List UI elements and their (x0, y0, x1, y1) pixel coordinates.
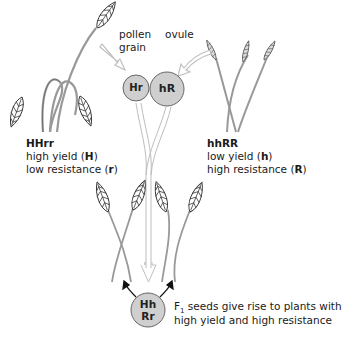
right-parent-genotype: hhRR (207, 137, 238, 150)
f1-plants (92, 178, 206, 282)
pollen-gamete-genotype: Hr (123, 82, 149, 93)
offspring-genotype-r: Rr (131, 310, 165, 322)
grain-label: grain (119, 41, 146, 54)
right-parent-trait-yield: low yield (h) (207, 150, 272, 163)
offspring-genotype-h: Hh (131, 298, 165, 310)
offspring-genotype: Hh Rr (131, 298, 165, 322)
ovule-arrow-icon (178, 50, 211, 76)
right-parent-trait-resistance: high resistance (R) (207, 163, 307, 176)
right-parent-plant (205, 39, 277, 132)
pollen-label: pollen (119, 28, 151, 41)
left-parent-plant (6, 0, 119, 132)
left-parent-genotype: HHrr (26, 137, 54, 150)
ovule-label: ovule (165, 28, 194, 41)
left-parent-trait-yield: high yield (H) (26, 150, 98, 163)
left-parent-trait-resistance: low resistance (r) (26, 163, 118, 176)
offspring-caption-line2: high yield and high resistance (174, 314, 332, 327)
ovule-gamete-genotype: hR (150, 82, 184, 95)
